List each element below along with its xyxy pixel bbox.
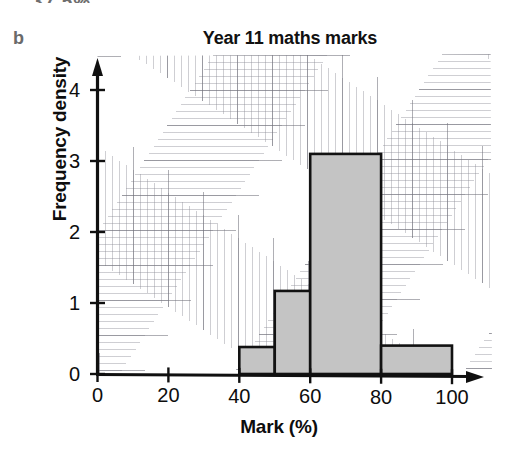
y-tick-label: 1 [56, 293, 80, 313]
y-tick-label: 0 [56, 364, 80, 384]
x-axis-title: Mark (%) [99, 416, 459, 438]
x-axis-line [96, 375, 470, 377]
x-axis-arrowhead [466, 371, 484, 383]
histogram-bar [310, 154, 381, 374]
x-tick-label: 100 [430, 387, 474, 407]
x-tick-label: 60 [288, 386, 332, 406]
axis-ticks-layer [90, 90, 452, 384]
x-tick-label: 20 [146, 385, 190, 405]
x-tick-label: 80 [359, 387, 403, 407]
histogram-bar [275, 291, 310, 374]
histogram-bar [239, 347, 274, 374]
x-tick-label: 40 [217, 386, 261, 406]
histogram-bar [381, 346, 452, 374]
chart-page: = 37.5% b Year 11 maths marks 01234 0204… [0, 0, 510, 462]
bars-layer [239, 154, 452, 374]
y-axis-title: Frequency density [49, 19, 71, 259]
y-axis-arrowhead [92, 58, 103, 76]
x-tick-label: 0 [76, 385, 120, 405]
